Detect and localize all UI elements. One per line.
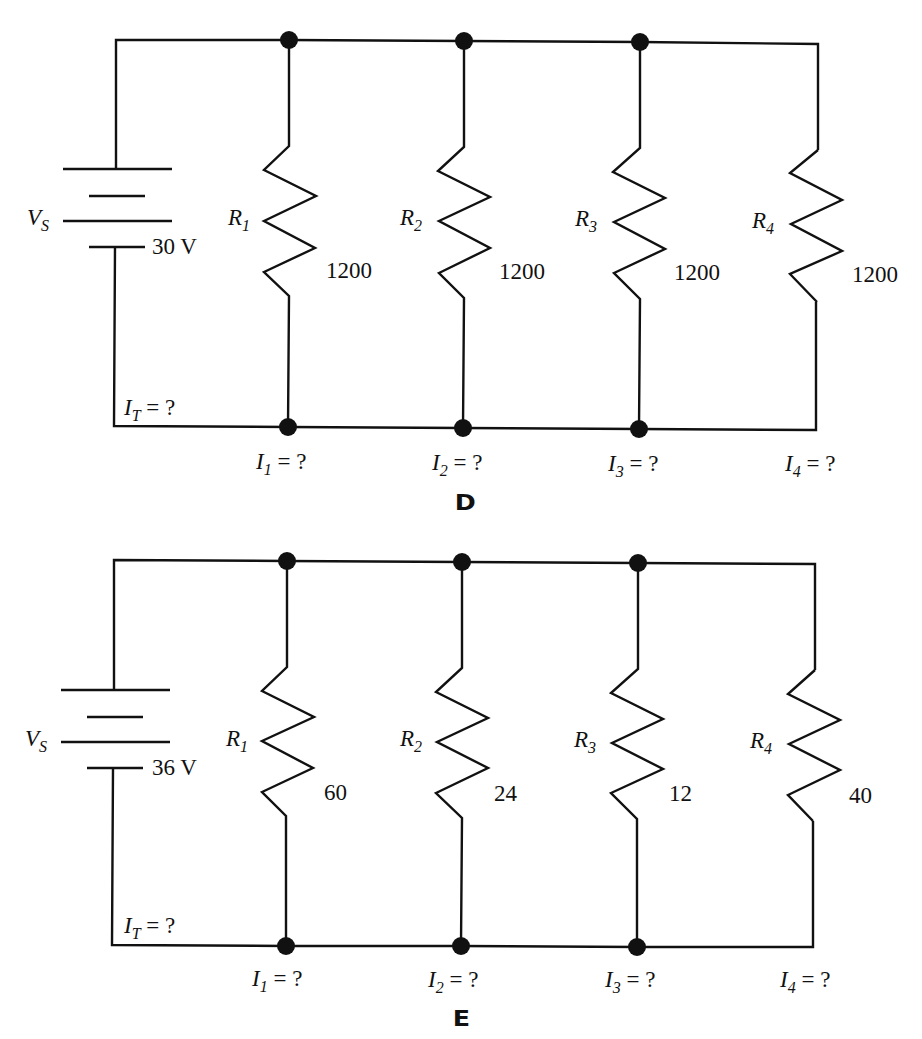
resistor-r4-label: R4 <box>750 729 772 752</box>
resistor-r1-label: R1 <box>226 727 248 750</box>
battery-positive-lead <box>114 560 815 690</box>
resistor-r2-label: R2 <box>400 727 422 750</box>
junction-node <box>278 552 296 570</box>
resistor-r2-symbol <box>436 562 488 946</box>
resistor-r1-value: 60 <box>324 781 347 804</box>
resistor-r4-symbol <box>788 670 840 821</box>
total-current-label: IT = ? <box>124 914 175 937</box>
junction-node <box>453 553 471 571</box>
resistor-r2-value: 24 <box>494 782 517 805</box>
figure-label-e: E <box>453 1008 470 1030</box>
source-voltage-value: 36 V <box>152 756 197 779</box>
junction-node <box>629 554 647 572</box>
branch-current-i2: I2 = ? <box>428 968 478 991</box>
resistor-r4-value: 40 <box>849 784 872 807</box>
resistor-r3-symbol <box>611 563 663 947</box>
source-label: VS <box>25 727 47 750</box>
branch-current-i1: I1 = ? <box>252 967 302 990</box>
resistor-r1-symbol <box>262 561 314 946</box>
junction-node <box>452 937 470 955</box>
parallel-circuit-diagrams: VS 30 V IT = ? R1 1200 I1 = ? R2 1200 I2… <box>0 0 922 1039</box>
junction-node <box>277 937 295 955</box>
resistor-r3-value: 12 <box>669 782 692 805</box>
branch-current-i3: I3 = ? <box>605 968 655 991</box>
branch-current-i4: I4 = ? <box>780 968 830 991</box>
junction-node <box>628 938 646 956</box>
resistor-r3-label: R3 <box>574 728 596 751</box>
circuit-e-schematic <box>0 0 922 1039</box>
